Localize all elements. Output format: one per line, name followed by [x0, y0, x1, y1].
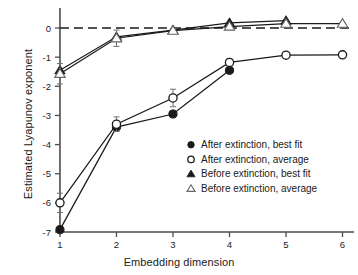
data-point-filled-circle	[188, 142, 194, 148]
lyapunov-exponent-chart: 0-1-2-3-4-5-6-7123456 After extinction, …	[0, 0, 358, 275]
x-axis-tick-label: 5	[283, 239, 288, 250]
data-point-open-circle	[112, 120, 120, 128]
y-axis-tick-label: -1	[43, 52, 51, 63]
data-point-open-circle	[56, 199, 64, 207]
legend-label: Before extinction, average	[201, 183, 318, 194]
y-axis-tick-label: -3	[43, 110, 51, 121]
x-axis-tick-label: 2	[114, 239, 119, 250]
x-axis-label-container: Embedding dimension	[0, 256, 358, 268]
series-line	[60, 55, 343, 203]
x-axis-tick-label: 6	[340, 239, 345, 250]
series-line	[60, 24, 343, 74]
data-point-open-circle	[225, 58, 233, 66]
x-axis-label: Embedding dimension	[124, 256, 235, 268]
data-point-open-triangle	[187, 185, 195, 192]
legend-label: Before extinction, best fit	[201, 168, 311, 179]
y-axis-label-container: Estimated Lyapunov exponent	[22, 39, 34, 209]
y-axis-label: Estimated Lyapunov exponent	[22, 49, 34, 199]
data-point-open-circle	[282, 51, 290, 59]
data-point-open-circle	[338, 51, 346, 59]
data-series-group	[55, 16, 348, 234]
data-point-filled-circle	[169, 110, 177, 118]
data-point-filled-triangle	[187, 170, 195, 177]
legend-label: After extinction, best fit	[201, 139, 302, 150]
y-axis-tick-label: -2	[43, 81, 51, 92]
x-axis-tick-label: 3	[170, 239, 175, 250]
x-axis-tick-label: 4	[227, 239, 232, 250]
y-axis-tick-label: 0	[46, 23, 51, 34]
legend-label: After extinction, average	[201, 154, 309, 165]
chart-legend: After extinction, best fitAfter extincti…	[187, 139, 318, 194]
y-axis-tick-label: -5	[43, 168, 51, 179]
data-point-open-circle	[188, 156, 194, 162]
y-axis-tick-label: -4	[43, 139, 51, 150]
x-axis-tick-label: 1	[57, 239, 62, 250]
y-axis-tick-label: -6	[43, 197, 51, 208]
series-2	[55, 16, 291, 74]
y-axis-tick-label: -7	[43, 227, 51, 238]
data-point-filled-circle	[225, 66, 233, 74]
axes-group: 0-1-2-3-4-5-6-7123456	[43, 8, 354, 250]
data-point-open-triangle	[337, 19, 347, 28]
data-point-filled-circle	[56, 226, 64, 234]
chart-canvas: 0-1-2-3-4-5-6-7123456 After extinction, …	[0, 0, 358, 275]
data-point-open-circle	[169, 94, 177, 102]
